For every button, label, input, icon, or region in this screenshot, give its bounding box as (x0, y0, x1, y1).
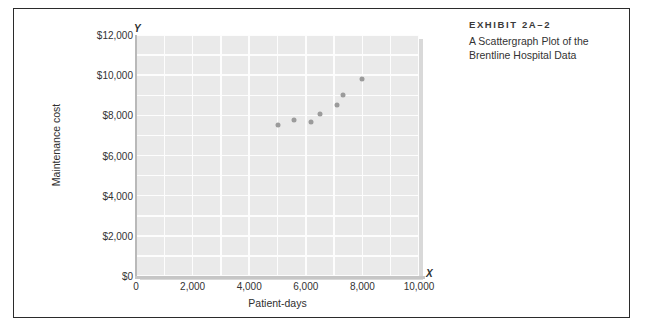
gridline-vertical (277, 35, 279, 276)
gridline-vertical (333, 35, 335, 276)
y-axis-tick-labels: $0$2,000$4,000$6,000$8,000$10,000$12,000 (19, 9, 133, 319)
y-tick-label: $12,000 (23, 30, 133, 41)
gridline-vertical (390, 35, 392, 276)
data-point (360, 77, 365, 82)
x-tick-label: 4,000 (237, 281, 262, 292)
data-point (340, 93, 345, 98)
plot-area (136, 35, 419, 276)
exhibit-frame: EXHIBIT 2A–2 A Scattergraph Plot of the … (13, 8, 630, 318)
gridline-vertical (220, 35, 222, 276)
gridline-vertical (192, 35, 194, 276)
x-axis-title: Patient-days (136, 297, 419, 309)
exhibit-caption-line-2: Brentline Hospital Data (469, 49, 619, 63)
y-tick-label: $10,000 (23, 70, 133, 81)
y-axis-letter: Y (134, 23, 141, 34)
data-point (275, 123, 280, 128)
scattergraph-chart: Y X $0$2,000$4,000$6,000$8,000$10,000$12… (14, 9, 454, 319)
y-axis-line (135, 35, 137, 277)
y-tick-label: $6,000 (23, 150, 133, 161)
exhibit-caption: EXHIBIT 2A–2 A Scattergraph Plot of the … (469, 19, 619, 62)
gridline-vertical (305, 35, 307, 276)
x-tick-label: 8,000 (350, 281, 375, 292)
x-tick-label: 2,000 (180, 281, 205, 292)
exhibit-number-label: EXHIBIT 2A–2 (469, 19, 619, 30)
y-tick-label: $2,000 (23, 230, 133, 241)
x-tick-label: 6,000 (293, 281, 318, 292)
data-point (334, 103, 339, 108)
exhibit-caption-line-1: A Scattergraph Plot of the (469, 35, 619, 49)
gridline-vertical (418, 35, 419, 276)
data-point (292, 118, 297, 123)
data-point (309, 120, 314, 125)
data-point (317, 112, 322, 117)
y-tick-label: $0 (23, 271, 133, 282)
x-axis-line (135, 276, 425, 279)
gridline-vertical (362, 35, 364, 276)
x-axis-letter: X (426, 268, 433, 279)
gridline-vertical (164, 35, 166, 276)
gridline-vertical (248, 35, 250, 276)
y-tick-label: $8,000 (23, 110, 133, 121)
x-tick-label: 10,000 (404, 281, 435, 292)
y-axis-title: Maintenance cost (50, 90, 62, 200)
x-tick-label: 0 (133, 281, 139, 292)
y-tick-label: $4,000 (23, 190, 133, 201)
